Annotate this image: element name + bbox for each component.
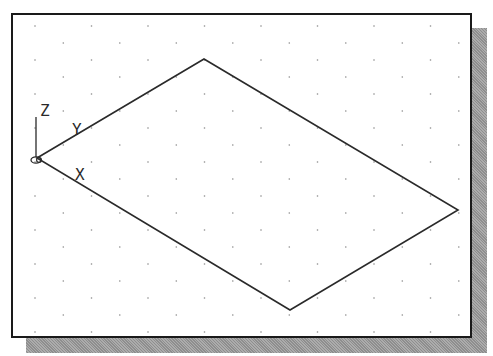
z-axis-label: Z [40,101,50,120]
isometric-parallelogram[interactable] [37,59,458,310]
x-axis-label: X [75,165,85,184]
drawing-canvas: Z Y X [0,0,493,356]
isometric-grid-dots [34,25,459,333]
y-axis-label: Y [72,120,82,139]
ucs-icon: Z Y X [31,101,85,184]
